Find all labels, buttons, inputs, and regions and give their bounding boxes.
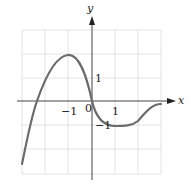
function-graph	[0, 0, 192, 186]
axes	[17, 24, 170, 180]
x-tick-label-neg1: −1	[61, 106, 77, 117]
y-tick-label-neg1: −1	[95, 120, 111, 131]
y-tick-label-pos1: 1	[95, 73, 102, 84]
x-tick-label-pos1: 1	[112, 106, 119, 117]
x-axis-arrow-icon	[167, 98, 176, 104]
origin-label: 0	[85, 103, 92, 114]
y-axis-arrow-icon	[89, 16, 95, 25]
x-axis-label: x	[178, 95, 184, 106]
y-axis-label: y	[87, 3, 93, 14]
